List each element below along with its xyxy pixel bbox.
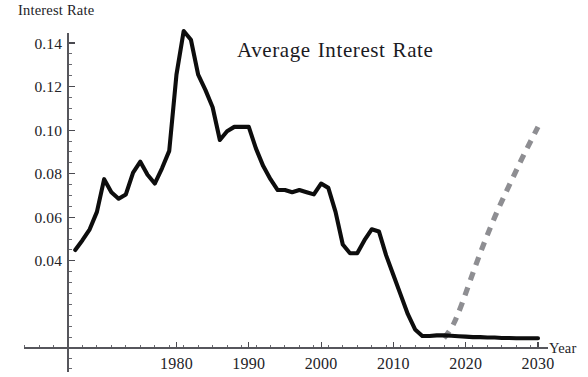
- y-tick-label-0-04: 0.04: [12, 253, 62, 269]
- x-tick-label-2020: 2020: [436, 356, 496, 372]
- chart-figure: Interest Rate Year AverageInterestRate 0…: [0, 0, 588, 377]
- y-tick-label-0-08: 0.08: [12, 166, 62, 182]
- y-tick-label-0-06: 0.06: [12, 210, 62, 226]
- x-tick-label-2000: 2000: [291, 356, 351, 372]
- y-axis-minor-ticks: [68, 54, 72, 368]
- y-tick-label-0-14: 0.14: [12, 36, 62, 52]
- x-tick-label-1990: 1990: [219, 356, 279, 372]
- projected-interest-rate-line: [444, 127, 538, 338]
- y-tick-label-0-12: 0.12: [12, 79, 62, 95]
- y-tick-label-0-10: 0.10: [12, 123, 62, 139]
- chart-title-word-3: Rate: [393, 38, 434, 62]
- x-axis-title: Year: [549, 341, 577, 356]
- chart-title-word-2: Interest: [318, 38, 386, 62]
- x-tick-label-2030: 2030: [508, 356, 568, 372]
- chart-title: AverageInterestRate: [237, 40, 433, 61]
- x-tick-label-2010: 2010: [363, 356, 423, 372]
- y-axis-title: Interest Rate: [18, 3, 94, 18]
- chart-title-word-1: Average: [237, 38, 311, 62]
- x-tick-label-1980: 1980: [146, 356, 206, 372]
